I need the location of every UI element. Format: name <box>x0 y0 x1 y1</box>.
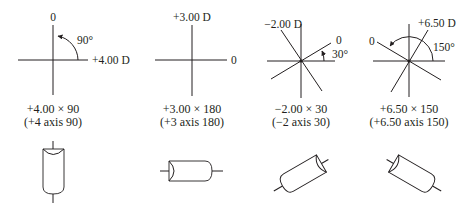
angle-label: 150° <box>433 41 455 53</box>
axis-label-right: +4.00 D <box>92 54 130 66</box>
axis-label-top: 0 <box>50 11 56 23</box>
angle-label: 90° <box>77 34 94 46</box>
prescription-notation: −2.00 × 30 <box>275 102 328 116</box>
power-label: −2.00 D <box>264 18 302 30</box>
panel-1-cylinder-icon <box>43 141 64 203</box>
panel-1-caption: +4.00 × 90 (+4 axis 90) <box>24 102 82 129</box>
panel-2-caption: +3.00 × 180 (+3 axis 180) <box>160 102 224 129</box>
panel-1-power-cross: 0 90° +4.00 D <box>18 11 130 95</box>
angle-arrow-icon <box>322 51 324 61</box>
panel-2-power-cross: +3.00 D 0 <box>155 11 237 96</box>
angle-arrow-icon <box>58 36 78 60</box>
axis-label: 0 <box>336 34 342 46</box>
axis-label-top: +3.00 D <box>173 11 211 23</box>
cylinder-lens-diagram: 0 90° +4.00 D +4.00 × 90 (+4 axis 90) +3… <box>0 0 469 212</box>
prescription-verbal: (+6.50 axis 150) <box>369 115 448 129</box>
panel-2-cylinder-icon <box>160 161 223 181</box>
panel-4-caption: +6.50 × 150 (+6.50 axis 150) <box>369 102 448 129</box>
prescription-verbal: (+4 axis 90) <box>24 115 82 129</box>
axis-label: 0 <box>369 35 375 47</box>
panel-4-power-cross: +6.50 D 0 150° <box>369 17 456 97</box>
panel-4-cylinder-icon <box>382 151 447 200</box>
prescription-notation: +4.00 × 90 <box>27 102 80 116</box>
axis-label-right: 0 <box>231 54 237 66</box>
panel-3-caption: −2.00 × 30 (−2 axis 30) <box>272 102 330 129</box>
prescription-notation: +6.50 × 150 <box>380 102 439 116</box>
prescription-notation: +3.00 × 180 <box>163 102 222 116</box>
panel-3-power-cross: −2.00 D 0 30° <box>264 18 348 98</box>
power-label: +6.50 D <box>418 17 456 29</box>
angle-label: 30° <box>332 48 349 60</box>
prescription-verbal: (−2 axis 30) <box>272 115 330 129</box>
panel-3-cylinder-icon <box>269 151 334 200</box>
prescription-verbal: (+3 axis 180) <box>160 115 224 129</box>
